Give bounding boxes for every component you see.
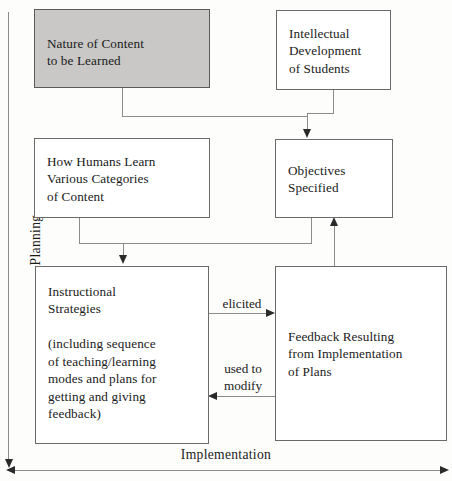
- feedback-to-objectives-arrowhead: [330, 217, 338, 226]
- node-objectives-specified-label: Objectives Specified: [288, 162, 384, 197]
- implementation-axis-line: [10, 470, 446, 471]
- instructional-inflow-arrowhead: [119, 255, 127, 264]
- node-feedback-resulting-label: Feedback Resulting from Implementation o…: [288, 328, 438, 380]
- implementation-axis-arrowhead-right: [440, 466, 449, 474]
- node-nature-of-content[interactable]: Nature of Content to be Learned: [34, 9, 210, 88]
- connector-objectives-outflow-drop: [311, 217, 312, 244]
- planning-axis-line: [8, 12, 9, 464]
- node-nature-of-content-label: Nature of Content to be Learned: [47, 35, 201, 70]
- connector-howhumans-run: [79, 243, 312, 244]
- edge-label-used-to-modify: used to modify: [210, 360, 276, 394]
- node-how-humans-learn[interactable]: How Humans Learn Various Categories of C…: [34, 138, 210, 218]
- connector-intellectual-to-objectives-run: [307, 113, 334, 114]
- diagram-canvas: Planning Implementation elicited used to…: [0, 0, 452, 481]
- connector-elicited-line: [208, 313, 268, 314]
- connector-nature-to-objectives-drop: [122, 88, 123, 117]
- connector-used-to-modify-line: [216, 396, 276, 397]
- edge-label-elicited: elicited: [209, 295, 275, 312]
- node-intellectual-development[interactable]: Intellectual Development of Students: [276, 10, 391, 90]
- node-intellectual-development-label: Intellectual Development of Students: [289, 25, 382, 77]
- connector-feedback-to-objectives: [334, 225, 335, 267]
- implementation-axis-arrowhead-left: [6, 466, 15, 474]
- node-instructional-strategies-label: Instructional Strategies (including sequ…: [48, 283, 200, 422]
- connector-nature-to-objectives-run: [122, 116, 308, 117]
- connector-intellectual-to-objectives-drop: [333, 90, 334, 114]
- node-objectives-specified[interactable]: Objectives Specified: [275, 139, 393, 218]
- implementation-axis-label: Implementation: [0, 447, 452, 463]
- objectives-inflow-arrowhead: [303, 129, 311, 138]
- node-how-humans-learn-label: How Humans Learn Various Categories of C…: [47, 153, 201, 205]
- node-feedback-resulting[interactable]: Feedback Resulting from Implementation o…: [275, 266, 447, 441]
- connector-howhumans-drop: [79, 218, 80, 244]
- node-instructional-strategies[interactable]: Instructional Strategies (including sequ…: [35, 266, 209, 444]
